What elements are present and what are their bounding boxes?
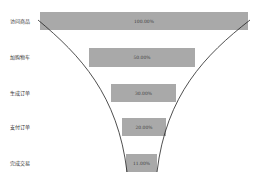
funnel-chart: 100.00%50.00%30.00%20.00%11.00% 访问商品加购物车… — [0, 0, 256, 186]
category-labels: 访问商品加购物车生成订单支付订单完成交易 — [10, 18, 30, 167]
category-label: 加购物车 — [10, 54, 30, 61]
category-label: 生成订单 — [10, 90, 30, 97]
funnel-bars: 100.00%50.00%30.00%20.00%11.00% — [40, 12, 248, 172]
bar-value-label: 11.00% — [133, 161, 151, 166]
category-label: 支付订单 — [10, 124, 30, 131]
category-label: 访问商品 — [10, 18, 30, 25]
bar-value-label: 100.00% — [134, 19, 155, 24]
category-label: 完成交易 — [10, 160, 30, 167]
bar-value-label: 30.00% — [135, 91, 153, 96]
bar-value-label: 50.00% — [133, 55, 151, 60]
bar-value-label: 20.00% — [135, 125, 153, 130]
